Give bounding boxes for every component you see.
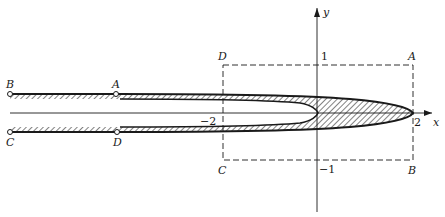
diagram-canvas: y x 1 −1 −2 2 D A C B B A C D <box>0 0 445 217</box>
x-axis-arrow-icon <box>424 110 432 116</box>
point-C-left <box>8 130 13 135</box>
strip-label-B: B <box>5 78 14 91</box>
strip-label-C: C <box>6 136 15 149</box>
point-A-marker <box>114 92 119 97</box>
strip-label-D: D <box>112 136 122 149</box>
tick-label-y-neg1: −1 <box>319 163 335 176</box>
strip-label-A: A <box>111 78 120 91</box>
point-D-marker <box>115 130 120 135</box>
y-axis-arrow-icon <box>314 8 320 17</box>
y-axis-label: y <box>322 6 330 19</box>
tick-label-y-1: 1 <box>321 50 328 63</box>
corner-label-A: A <box>407 50 416 63</box>
x-axis-label: x <box>433 116 440 129</box>
corner-label-D: D <box>217 50 227 63</box>
tick-label-x-neg2: −2 <box>200 115 216 128</box>
corner-label-C: C <box>218 164 227 177</box>
point-B-left <box>8 92 13 97</box>
tick-label-x-2: 2 <box>414 116 421 129</box>
corner-label-B: B <box>407 164 416 177</box>
